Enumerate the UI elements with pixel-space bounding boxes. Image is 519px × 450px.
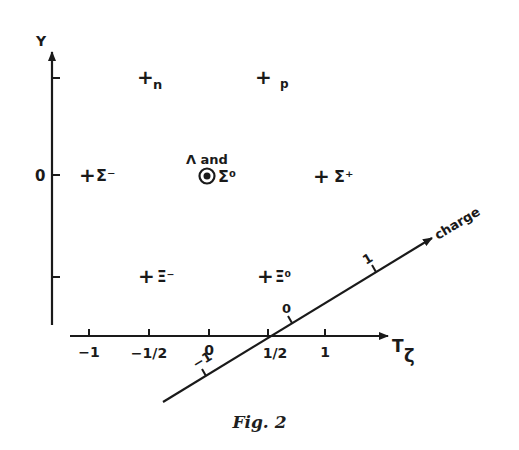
x-tick-label: 1/2 — [263, 345, 288, 361]
particle-n: + n — [137, 65, 162, 92]
svg-text:Σ⁺: Σ⁺ — [334, 167, 353, 186]
particle-lambda-sigma0: Λ and Σ⁰ — [186, 152, 236, 186]
baryon-octet-diagram: Y 0 −1 −1/2 0 1/2 1 T ζ −1 0 1 charge + … — [0, 0, 519, 450]
particle-xi-minus: + Ξ⁻ — [138, 264, 174, 288]
y-axis: Y 0 — [35, 33, 60, 325]
particle-xi-zero: + Ξ⁰ — [257, 264, 291, 288]
svg-text:Ξ⁰: Ξ⁰ — [275, 268, 291, 286]
y-tick-label-0: 0 — [35, 167, 45, 185]
plus-marker-icon: + — [137, 65, 154, 89]
plus-marker-icon: + — [255, 65, 272, 89]
x-tick-label: −1 — [78, 344, 99, 360]
y-axis-label: Y — [35, 33, 47, 49]
particle-sigma-plus: + Σ⁺ — [313, 164, 353, 188]
particle-sigma-minus: + Σ⁻ — [79, 163, 115, 187]
figure-caption: Fig. 2 — [0, 412, 519, 432]
charge-tick-label: 0 — [282, 301, 291, 316]
t-zeta-axis: −1 −1/2 0 1/2 1 T ζ — [70, 329, 415, 366]
x-tick-label: 1 — [320, 344, 330, 360]
plus-marker-icon: + — [79, 163, 96, 187]
charge-axis: −1 0 1 charge — [163, 204, 483, 402]
charge-axis-label: charge — [432, 204, 483, 243]
plus-marker-icon: + — [313, 164, 330, 188]
plus-marker-icon: + — [138, 264, 155, 288]
svg-text:Σ⁻: Σ⁻ — [96, 166, 115, 185]
x-tick-label: −1/2 — [131, 345, 167, 361]
plus-marker-icon: + — [257, 264, 274, 288]
x-axis-label: T — [392, 336, 404, 356]
x-axis-label-sub: ζ — [404, 345, 415, 366]
svg-text:Λ and: Λ and — [186, 152, 228, 167]
svg-text:n: n — [153, 77, 162, 92]
svg-text:Ξ⁻: Ξ⁻ — [157, 268, 174, 286]
svg-text:Σ⁰: Σ⁰ — [218, 167, 236, 186]
particle-p: + p — [255, 65, 289, 91]
svg-text:p: p — [280, 77, 289, 91]
